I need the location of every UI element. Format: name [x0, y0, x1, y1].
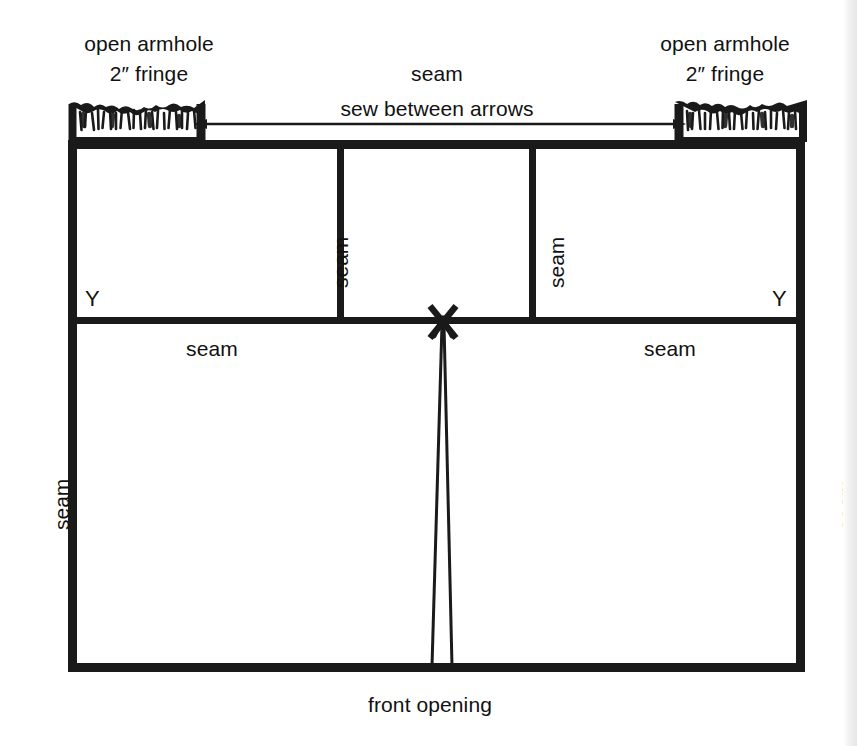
label-front-opening: front opening	[368, 693, 492, 717]
front-opening-slit	[432, 324, 452, 666]
label-top-seam: seam	[411, 62, 463, 86]
label-open-armhole-right-line1: open armhole	[660, 32, 790, 56]
label-corner-mark-left: Y	[85, 286, 100, 312]
label-seam-vertical-right: seam	[545, 237, 569, 288]
garment-outline	[73, 145, 801, 668]
label-corner-mark-right: Y	[772, 286, 787, 312]
fringe-block-left	[69, 100, 205, 142]
label-seam-horizontal-right: seam	[644, 337, 696, 361]
label-open-armhole-right-line2: 2″ fringe	[686, 62, 764, 86]
label-seam-side-left: seam	[50, 479, 74, 530]
diagram-canvas: open armhole 2″ fringe open armhole 2″ f…	[0, 0, 857, 746]
label-seam-horizontal-left: seam	[186, 337, 238, 361]
label-open-armhole-left-line1: open armhole	[84, 32, 214, 56]
fringe-block-right	[675, 100, 807, 142]
label-sew-between-arrows: sew between arrows	[340, 97, 533, 121]
label-open-armhole-left-line2: 2″ fringe	[110, 62, 188, 86]
page-scan-edge	[843, 0, 857, 746]
label-seam-vertical-left: seam	[329, 237, 353, 288]
